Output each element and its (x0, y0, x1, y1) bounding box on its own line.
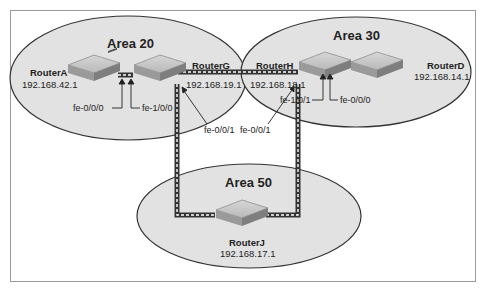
router-h-ip: 192.168.18.1 (250, 79, 305, 90)
interface-label-d-fe000: fe-0/0/0 (340, 95, 371, 105)
interface-label-h-fe001: fe-0/0/1 (240, 125, 271, 135)
interface-label-a-fe000: fe-0/0/0 (73, 103, 104, 113)
area-20-label: Area 20 (107, 36, 154, 51)
router-j-ip: 192.168.17.1 (220, 248, 275, 259)
router-d-ip: 192.168.14.1 (414, 71, 469, 82)
interface-label-g-fe001: fe-0/0/1 (204, 125, 235, 135)
router-a-ip: 192.168.42.1 (22, 79, 77, 90)
router-h-name: RouterH (256, 60, 293, 71)
area-50-label: Area 50 (225, 175, 272, 190)
router-g-name: RouterG (192, 60, 230, 71)
area-30-label: Area 30 (333, 28, 380, 43)
router-g-ip: 192.168.19.1 (186, 79, 241, 90)
area-20-ellipse (10, 16, 246, 140)
router-a-name: RouterA (30, 67, 67, 78)
interface-label-g-fe100: fe-1/0/0 (142, 103, 173, 113)
router-j-name: RouterJ (229, 237, 265, 248)
interface-label-h-fe101: fe-1/0/1 (280, 95, 311, 105)
router-d-name: RouterD (427, 60, 464, 71)
